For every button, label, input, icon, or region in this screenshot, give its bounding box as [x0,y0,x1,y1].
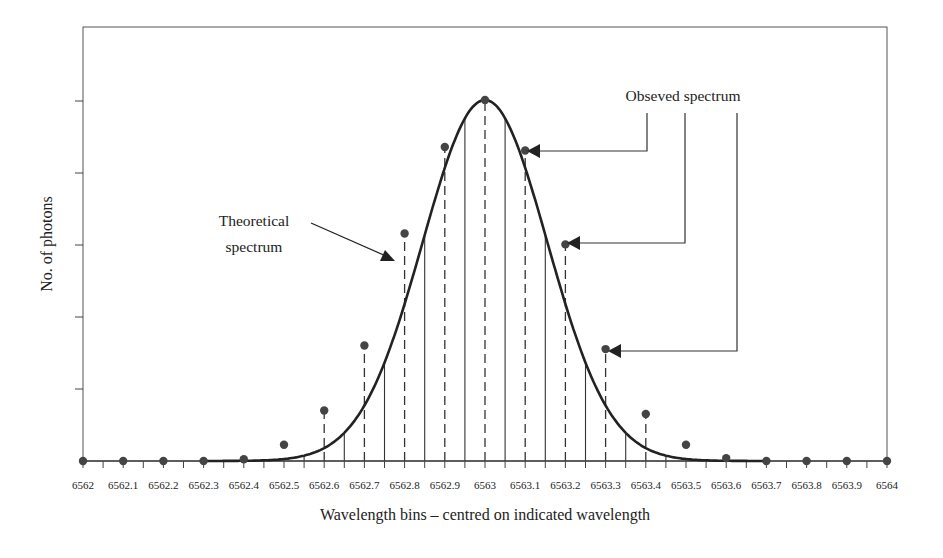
x-tick-label: 6563.3 [590,479,621,491]
x-tick-label: 6562.1 [108,479,138,491]
x-tick-label: 6562 [72,479,94,491]
observed-point [762,457,770,465]
observed-point [601,345,609,353]
observed-label: Obseved spectrum [626,87,741,104]
x-axis-ticks: 65626562.16562.26562.36562.46562.56562.6… [72,461,899,491]
x-tick-label: 6563.1 [510,479,540,491]
x-tick-label: 6563.7 [751,479,782,491]
bin-lines [304,100,666,461]
x-tick-label: 6562.5 [269,479,300,491]
observed-point [199,457,207,465]
observed-point [280,441,288,449]
x-tick-label: 6563.2 [550,479,580,491]
y-axis-ticks [75,101,83,389]
observed-point [802,457,810,465]
observed-pointer-3 [618,113,737,351]
observed-point [320,406,328,414]
observed-point [843,457,851,465]
observed-point [642,410,650,418]
x-axis-title: Wavelength bins – centred on indicated w… [320,506,650,524]
observed-point [240,455,248,463]
observed-point [159,457,167,465]
x-tick-label: 6562.9 [430,479,461,491]
x-tick-label: 6564 [876,479,899,491]
observed-arrow-head-2 [567,236,580,250]
x-tick-label: 6563 [474,479,497,491]
x-tick-label: 6562.3 [188,479,219,491]
theoretical-label-line2: spectrum [226,238,283,255]
observed-point [722,454,730,462]
x-tick-label: 6563.4 [631,479,662,491]
theoretical-label-line1: Theoretical [219,212,290,229]
spectrum-diagram: 65626562.16562.26562.36562.46562.56562.6… [0,0,943,558]
theoretical-spectrum-curve [204,100,765,461]
observed-point [561,240,569,248]
x-tick-label: 6563.8 [791,479,822,491]
observed-point [360,341,368,349]
x-tick-label: 6562.4 [229,479,260,491]
observed-point [119,457,127,465]
observed-point [682,441,690,449]
x-tick-label: 6562.7 [349,479,380,491]
observed-pointer-1 [537,113,647,151]
observed-point [400,229,408,237]
observed-pointer-2 [577,113,685,243]
observed-arrow-head-1 [527,144,540,158]
y-axis-title: No. of photons [38,196,56,292]
observed-point [441,143,449,151]
observed-arrow-head-3 [608,344,621,358]
theoretical-arrow-head [380,250,395,261]
x-tick-label: 6562.6 [309,479,340,491]
observed-point [883,457,891,465]
x-tick-label: 6563.6 [711,479,742,491]
observed-point [79,457,87,465]
x-tick-label: 6562.2 [148,479,178,491]
theoretical-arrow-line [311,223,386,256]
x-tick-label: 6563.5 [671,479,702,491]
observed-point [481,96,489,104]
x-tick-label: 6562.8 [389,479,420,491]
x-tick-label: 6563.9 [832,479,863,491]
